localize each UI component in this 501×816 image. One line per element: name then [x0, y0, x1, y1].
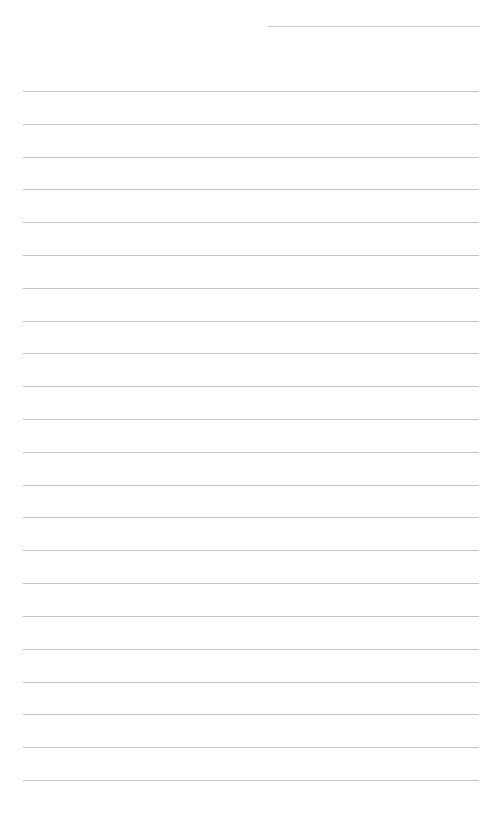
ruled-line [23, 91, 479, 92]
ruled-line [23, 419, 479, 420]
ruled-line [23, 682, 479, 683]
ruled-line [23, 386, 479, 387]
ruled-line [23, 485, 479, 486]
ruled-line [23, 222, 479, 223]
header-date-line [268, 26, 480, 27]
ruled-line [23, 517, 479, 518]
ruled-line [23, 189, 479, 190]
ruled-line [23, 321, 479, 322]
ruled-line [23, 649, 479, 650]
ruled-line [23, 452, 479, 453]
ruled-line [23, 124, 479, 125]
ruled-line [23, 747, 479, 748]
ruled-line [23, 353, 479, 354]
ruled-line [23, 550, 479, 551]
lined-paper-page [0, 0, 501, 816]
ruled-line [23, 780, 479, 781]
ruled-line [23, 288, 479, 289]
ruled-line [23, 157, 479, 158]
ruled-line [23, 714, 479, 715]
ruled-line [23, 255, 479, 256]
ruled-line [23, 616, 479, 617]
ruled-line [23, 583, 479, 584]
